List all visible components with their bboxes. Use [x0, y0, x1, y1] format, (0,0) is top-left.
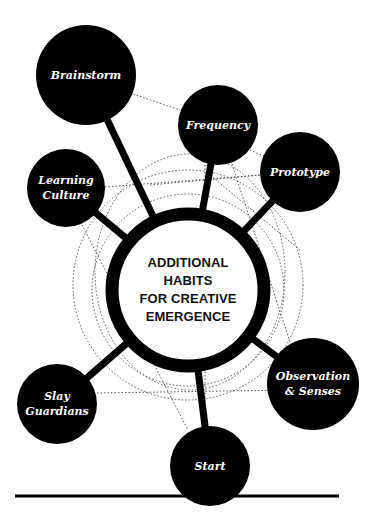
- center-title-line: FOR CREATIVE: [139, 290, 236, 308]
- node-label-line: Learning: [38, 173, 94, 188]
- node-label-line: Guardians: [25, 404, 89, 419]
- node-label-brainstorm: Brainstorm: [51, 68, 121, 83]
- center-title-line: HABITS: [139, 272, 236, 290]
- node-label-line: Start: [194, 459, 225, 474]
- center-title-line: EMERGENCE: [139, 308, 236, 326]
- node-label-line: Brainstorm: [51, 68, 121, 83]
- node-label-observation-senses: Observation & Senses: [276, 369, 350, 399]
- node-label-frequency: Frequency: [186, 118, 250, 133]
- center-title: ADDITIONAL HABITS FOR CREATIVE EMERGENCE: [139, 254, 236, 326]
- node-label-line: Frequency: [186, 118, 250, 133]
- node-label-line: Culture: [38, 188, 94, 203]
- node-label-line: Slay: [25, 389, 89, 404]
- habits-diagram: ADDITIONAL HABITS FOR CREATIVE EMERGENCE…: [0, 0, 374, 528]
- node-label-prototype: Prototype: [270, 165, 330, 180]
- node-label-line: Prototype: [270, 165, 330, 180]
- node-label-line: Observation: [276, 369, 350, 384]
- node-label-slay-guardians: Slay Guardians: [25, 389, 89, 419]
- center-title-line: ADDITIONAL: [139, 254, 236, 272]
- node-label-learning-culture: Learning Culture: [38, 173, 94, 203]
- node-label-start: Start: [194, 459, 225, 474]
- node-label-line: & Senses: [276, 384, 350, 399]
